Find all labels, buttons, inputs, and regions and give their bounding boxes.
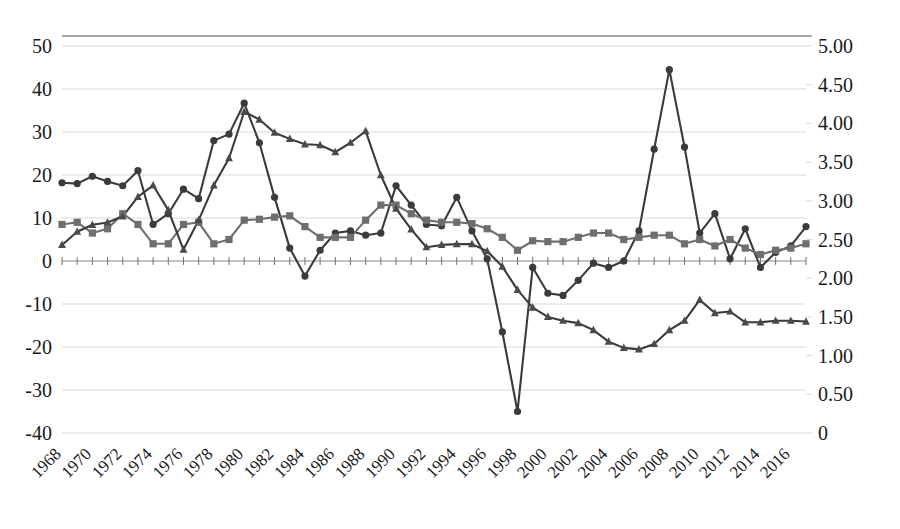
right-axis-tick-label: 3.50 xyxy=(818,151,853,173)
right-axis-tick-label: 3.00 xyxy=(818,190,853,212)
data-point-marker-circle xyxy=(150,221,157,228)
data-point-marker-circle xyxy=(802,223,809,230)
data-point-marker-square xyxy=(802,240,809,247)
data-point-marker-triangle xyxy=(149,181,157,188)
data-point-marker-circle xyxy=(605,264,612,271)
left-axis-tick-label: 30 xyxy=(32,121,52,143)
data-point-marker-square xyxy=(742,245,749,252)
left-axis-tick-label: -30 xyxy=(25,379,52,401)
data-point-marker-circle xyxy=(726,255,733,262)
x-axis-tick-label: 2016 xyxy=(756,444,793,481)
data-point-marker-circle xyxy=(529,264,536,271)
data-point-marker-circle xyxy=(408,202,415,209)
data-point-marker-square xyxy=(408,210,415,217)
right-axis-tick-label: 0.50 xyxy=(818,383,853,405)
x-axis-tick-labels: 1968197019721974197619781980198219841986… xyxy=(27,444,793,482)
data-point-marker-square xyxy=(165,240,172,247)
data-point-marker-circle xyxy=(210,137,217,144)
x-axis-tick-label: 1974 xyxy=(118,444,156,482)
x-axis-tick-label: 2002 xyxy=(544,444,581,481)
data-point-marker-square xyxy=(134,221,141,228)
right-axis-tick-label: 4.50 xyxy=(818,74,853,96)
data-point-marker-square xyxy=(544,238,551,245)
x-axis-tick-label: 1998 xyxy=(483,444,520,481)
data-point-marker-circle xyxy=(74,180,81,187)
data-point-marker-square xyxy=(89,229,96,236)
data-point-marker-circle xyxy=(241,100,248,107)
data-point-marker-circle xyxy=(347,227,354,234)
data-point-marker-triangle xyxy=(696,296,704,303)
data-point-marker-circle xyxy=(453,194,460,201)
data-point-marker-square xyxy=(438,219,445,226)
left-axis-tick-labels: 50403020100-10-20-30-40 xyxy=(25,35,52,444)
data-point-marker-square xyxy=(514,247,521,254)
data-point-marker-circle xyxy=(468,227,475,234)
right-axis-tick-label: 1.50 xyxy=(818,306,853,328)
data-point-marker-square xyxy=(468,220,475,227)
data-point-marker-circle xyxy=(119,182,126,189)
data-point-marker-circle xyxy=(635,227,642,234)
x-axis-tick-label: 1994 xyxy=(422,444,460,482)
x-axis-tick-label: 2000 xyxy=(513,444,550,481)
data-point-marker-circle xyxy=(180,186,187,193)
left-axis-tick-label: -20 xyxy=(25,336,52,358)
data-point-marker-square xyxy=(210,240,217,247)
gridlines-group xyxy=(62,46,806,433)
data-point-marker-circle xyxy=(696,229,703,236)
data-point-marker-circle xyxy=(681,143,688,150)
x-axis-tick-label: 2010 xyxy=(665,444,702,481)
left-axis-tick-label: -10 xyxy=(25,293,52,315)
data-point-marker-square xyxy=(301,223,308,230)
data-point-marker-square xyxy=(499,234,506,241)
x-axis-tick-label: 1984 xyxy=(270,444,308,482)
data-point-marker-square xyxy=(423,217,430,224)
data-point-marker-circle xyxy=(514,408,521,415)
data-point-marker-square xyxy=(590,229,597,236)
data-point-marker-circle xyxy=(666,66,673,73)
x-axis-tick-label: 1996 xyxy=(452,444,489,481)
left-axis-tick-label: 50 xyxy=(32,35,52,57)
data-point-marker-square xyxy=(696,236,703,243)
data-point-marker-circle xyxy=(544,290,551,297)
data-point-marker-circle xyxy=(301,272,308,279)
x-axis-tick-label: 1992 xyxy=(392,444,429,481)
right-axis-tick-label: 4.00 xyxy=(818,112,853,134)
data-point-marker-square xyxy=(241,217,248,224)
data-point-marker-circle xyxy=(195,195,202,202)
data-point-marker-square xyxy=(74,219,81,226)
data-point-marker-circle xyxy=(58,179,65,186)
x-axis-tick-label: 2006 xyxy=(604,444,641,481)
data-point-marker-circle xyxy=(651,146,658,153)
data-point-marker-square xyxy=(726,236,733,243)
x-axis-tick-label: 1970 xyxy=(58,444,95,481)
data-point-marker-square xyxy=(347,234,354,241)
left-axis-tick-label: 0 xyxy=(42,250,52,272)
data-point-marker-circle xyxy=(484,255,491,262)
data-point-marker-circle xyxy=(134,167,141,174)
data-point-marker-square xyxy=(271,214,278,221)
x-axis-tick-label: 1982 xyxy=(240,444,277,481)
data-point-marker-circle xyxy=(499,328,506,335)
data-point-marker-circle xyxy=(377,229,384,236)
x-axis-tick-label: 2014 xyxy=(726,444,764,482)
left-axis-tick-label: 10 xyxy=(32,207,52,229)
line-chart-svg: 50403020100-10-20-30-40 5.004.504.003.50… xyxy=(0,0,900,529)
x-axis-tick-label: 2012 xyxy=(695,444,732,481)
data-point-marker-circle xyxy=(271,194,278,201)
data-point-marker-circle xyxy=(559,292,566,299)
x-axis-tick-label: 1972 xyxy=(88,444,125,481)
data-point-marker-square xyxy=(605,229,612,236)
x-axis-tick-label: 1990 xyxy=(361,444,398,481)
data-point-marker-triangle xyxy=(225,154,233,161)
data-point-marker-circle xyxy=(590,260,597,267)
data-point-marker-square xyxy=(711,242,718,249)
x-axis-tick-label: 1980 xyxy=(210,444,247,481)
data-point-marker-circle xyxy=(225,131,232,138)
data-point-marker-circle xyxy=(362,232,369,239)
data-point-marker-circle xyxy=(711,210,718,217)
series-line-triangle xyxy=(62,112,806,350)
data-point-marker-square xyxy=(362,217,369,224)
data-point-marker-circle xyxy=(392,182,399,189)
data-point-marker-square xyxy=(317,234,324,241)
data-point-marker-circle xyxy=(742,225,749,232)
